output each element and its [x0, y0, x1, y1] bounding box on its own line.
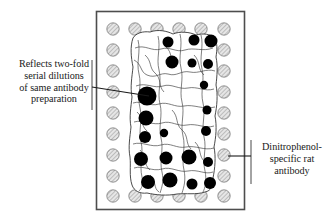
antibody-spot [218, 86, 230, 98]
immunoreactive-dot [139, 131, 151, 143]
antibody-spot [218, 107, 230, 119]
antibody-spot [107, 65, 119, 77]
antibody-spot [195, 23, 207, 35]
immunoreactive-dot [163, 37, 174, 48]
label-left-line-3: of same antibody [13, 82, 95, 94]
immunoreactive-dot [187, 179, 198, 190]
antibody-spot [107, 190, 119, 202]
antibody-spot [218, 170, 230, 182]
antibody-spot [107, 86, 119, 98]
immunoreactive-dot [201, 126, 211, 136]
label-right-line-3: antibody [252, 165, 332, 177]
antibody-spot-annotated [218, 149, 230, 161]
immunoreactive-dot [166, 56, 179, 69]
immunoreactive-dot [204, 177, 216, 189]
label-left-line-2: serial dilutions [13, 70, 95, 82]
reflects-two-fold-serial-dilutions-label: Reflects two-fold serial dilutions of sa… [13, 58, 95, 105]
antibody-spot [107, 128, 119, 140]
immunoreactive-dot [139, 111, 154, 126]
antibody-plate-figure [0, 0, 334, 223]
label-left-line-1: Reflects two-fold [13, 58, 95, 70]
antibody-spot [107, 107, 119, 119]
label-right-line-1: Dinitrophenol- [252, 141, 332, 153]
immunoreactive-dot [134, 152, 148, 166]
antibody-spot [107, 44, 119, 56]
tissue-membrane [129, 31, 217, 196]
immunoreactive-dot [203, 157, 213, 167]
antibody-spot [218, 65, 230, 77]
label-left-line-4: preparation [13, 93, 95, 105]
antibody-spot [218, 190, 230, 202]
immunoreactive-dot [160, 129, 168, 137]
immunoreactive-dot [189, 35, 200, 46]
label-right-line-2: specific rat [252, 153, 332, 165]
immunoreactive-dot [205, 35, 218, 48]
antibody-spot [107, 170, 119, 182]
immunoreactive-dot [203, 59, 213, 69]
immunoreactive-dot [200, 81, 208, 89]
immunoreactive-dot [141, 175, 155, 189]
antibody-spot [107, 149, 119, 161]
immunoreactive-dot [160, 152, 173, 165]
dinitrophenol-specific-rat-antibody-label: Dinitrophenol- specific rat antibody [252, 141, 332, 176]
antibody-spot [218, 23, 230, 35]
immunoreactive-dot [203, 106, 212, 115]
immunoreactive-dot [182, 150, 197, 165]
immunoreactive-dot [188, 59, 197, 68]
antibody-spot [218, 128, 230, 140]
antibody-spot [218, 44, 230, 56]
antibody-spot [107, 23, 119, 35]
immunoreactive-dot [163, 173, 178, 188]
